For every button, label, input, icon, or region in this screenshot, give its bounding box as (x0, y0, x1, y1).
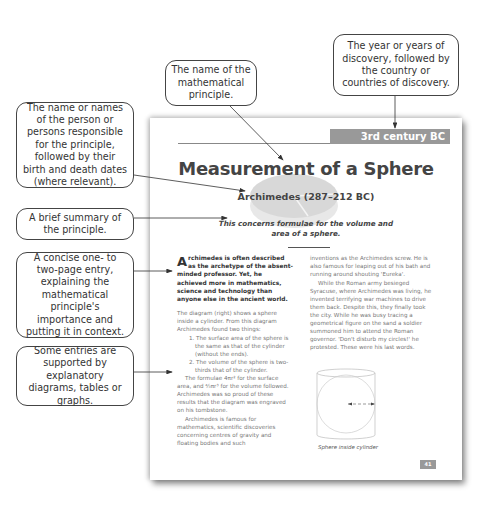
text-column-right: inventions as the Archimedes screw. He i… (310, 254, 434, 352)
summary-rule (288, 247, 330, 248)
callout-text: Some entries are supported by explanator… (22, 345, 128, 407)
drop-cap: A (177, 257, 187, 266)
page-title: Measurement of a Sphere (150, 158, 462, 179)
callout-principle-name: The name of the mathematical principle. (165, 60, 257, 106)
era-country-band: 3rd century BC Greece (330, 129, 450, 144)
callout-text: The year or years of discovery, followed… (339, 40, 453, 90)
body-paragraph: The formulae 4πr² for the surface area, … (177, 374, 293, 414)
text-column-left: A rchimedes is often described as the ar… (177, 254, 293, 448)
body-paragraph: inventions as the Archimedes screw. He i… (310, 254, 434, 278)
callout-diagrams: Some entries are supported by explanator… (16, 346, 134, 406)
person-dates: Archimedes (287–212 BC) (150, 191, 462, 202)
header-rule (178, 143, 330, 144)
callout-text: A concise one- to two-page entry, explai… (22, 252, 128, 339)
book-page: 3rd century BC Greece Measurement of a S… (150, 118, 462, 480)
callout-person-name: The name or names of the person or perso… (16, 102, 134, 188)
callout-year-country: The year or years of discovery, followed… (333, 34, 459, 96)
callout-text: The name or names of the person or perso… (22, 102, 128, 189)
lead-paragraph: A rchimedes is often described as the ar… (177, 254, 293, 303)
diagram-caption: Sphere inside cylinder (300, 444, 396, 450)
numbered-list: 1. The surface area of the sphere is the… (177, 334, 293, 374)
list-item: 1. The surface area of the sphere is the… (189, 334, 293, 358)
callout-entry: A concise one- to two-page entry, explai… (16, 252, 134, 338)
sphere-in-cylinder-diagram (315, 368, 377, 440)
list-item: 2. The volume of the sphere is two-third… (189, 358, 293, 374)
callout-summary: A brief summary of the principle. (16, 208, 134, 240)
body-paragraph: Archimedes is famous for mathematics, sc… (177, 415, 293, 447)
body-paragraph: The diagram (right) shows a sphere insid… (177, 309, 293, 333)
lead-text: rchimedes is often described as the arch… (177, 255, 293, 302)
callout-text: A brief summary of the principle. (22, 212, 128, 237)
body-paragraph: While the Roman army besieged Syracuse, … (310, 279, 434, 351)
page-number: 41 (420, 460, 436, 469)
callout-text: The name of the mathematical principle. (171, 64, 251, 101)
principle-summary: This concerns formulae for the volume an… (210, 219, 402, 239)
